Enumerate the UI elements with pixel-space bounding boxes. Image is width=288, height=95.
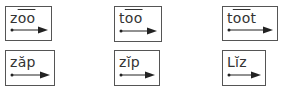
- word-card-zip: zĭp: [114, 50, 160, 86]
- reading-arrow-icon: [227, 71, 261, 79]
- reading-arrow-icon: [10, 71, 50, 79]
- word-toot: toot: [227, 10, 256, 26]
- word-card-zoo: zoo: [5, 6, 52, 41]
- word-zip: zĭp: [119, 54, 140, 70]
- reading-arrow-icon: [227, 26, 273, 34]
- word-too: too: [119, 10, 143, 26]
- word-liz: Lĭz: [227, 54, 247, 70]
- word-card-too: too: [114, 6, 162, 42]
- word-card-zap: zăp: [5, 50, 55, 86]
- word-zap: zăp: [10, 54, 36, 70]
- reading-arrow-icon: [119, 71, 155, 79]
- reading-arrow-icon: [119, 27, 157, 35]
- word-zoo: zoo: [10, 10, 35, 26]
- word-card-liz: Lĭz: [222, 50, 266, 86]
- word-card-toot: toot: [222, 6, 278, 41]
- reading-arrow-icon: [10, 26, 48, 34]
